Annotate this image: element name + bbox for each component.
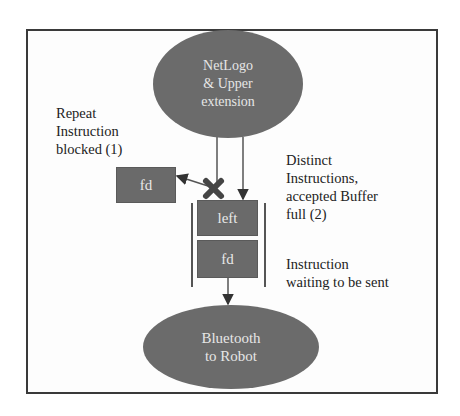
distinct-instructions-note: Distinct Instructions, accepted Buffer f…: [286, 151, 378, 223]
bluetooth-sink-node: Bluetooth to Robot: [143, 305, 319, 389]
buffer-fd-box: fd: [197, 240, 258, 278]
buffer-left-bracket: [191, 203, 193, 287]
buffer-right-bracket: [264, 203, 266, 287]
x-cross-icon: [206, 181, 221, 196]
buffer-left-label: left: [218, 210, 238, 227]
netlogo-source-node: NetLogo & Upper extension: [153, 30, 303, 138]
blocked-fd-box: fd: [116, 167, 176, 203]
repeat-blocked-note: Repeat Instruction blocked (1): [56, 104, 122, 158]
blocked-fd-label: fd: [140, 177, 153, 194]
bluetooth-sink-label: Bluetooth to Robot: [201, 329, 260, 365]
buffer-fd-label: fd: [221, 251, 234, 268]
netlogo-source-label: NetLogo & Upper extension: [201, 57, 255, 111]
waiting-instruction-note: Instruction waiting to be sent: [286, 255, 389, 291]
buffer-left-box: left: [197, 200, 258, 236]
